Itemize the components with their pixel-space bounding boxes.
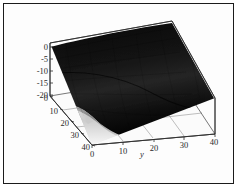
y-tick-0: 0 xyxy=(90,149,94,159)
y-tick-3: 30 xyxy=(180,140,189,150)
x-tick-3: 30 xyxy=(71,130,80,140)
x-tick-0: 0 xyxy=(44,93,48,103)
surface-plot-svg: 0 -5 -10 -15 -20 0 10 20 30 40 0 10 20 xyxy=(0,0,239,189)
z-axis: 0 -5 -10 -15 -20 xyxy=(37,42,53,100)
y-axis-label: y xyxy=(139,149,144,159)
x-tick-2: 20 xyxy=(61,118,70,128)
z-tick-1: -5 xyxy=(41,54,48,64)
x-tick-1: 10 xyxy=(50,106,59,116)
z-tick-2: -10 xyxy=(37,66,48,76)
x-tick-4: 40 xyxy=(82,142,91,152)
y-tick-2: 20 xyxy=(150,143,159,153)
y-tick-4: 40 xyxy=(210,137,219,147)
z-tick-3: -15 xyxy=(37,78,48,88)
surface-plot: 0 -5 -10 -15 -20 0 10 20 30 40 0 10 20 xyxy=(0,0,239,189)
y-tick-1: 10 xyxy=(119,146,128,156)
z-tick-0: 0 xyxy=(44,42,48,52)
